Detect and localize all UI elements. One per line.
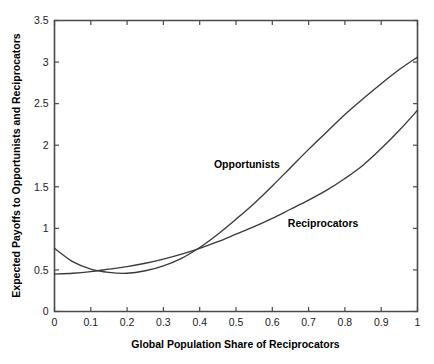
annotation-reciprocators: Reciprocators: [288, 217, 359, 229]
chart-background: [0, 0, 434, 364]
x-tick-label-10: 1: [415, 316, 421, 328]
y-tick-label-0: 0: [43, 305, 49, 317]
x-tick-label-7: 0.7: [301, 316, 316, 328]
annotation-opportunists: Opportunists: [214, 158, 280, 170]
y-tick-label-1: 0.5: [34, 264, 49, 276]
x-tick-label-4: 0.4: [192, 316, 207, 328]
x-tick-label-3: 0.3: [156, 316, 171, 328]
x-tick-label-8: 0.8: [338, 316, 353, 328]
chart-figure: 00.10.20.30.40.50.60.70.80.91 00.511.522…: [0, 0, 434, 364]
x-tick-label-6: 0.6: [265, 316, 280, 328]
y-tick-label-4: 2: [43, 139, 49, 151]
y-tick-label-5: 2.5: [34, 97, 49, 109]
x-tick-label-9: 0.9: [374, 316, 389, 328]
x-tick-label-0: 0: [52, 316, 58, 328]
y-tick-label-3: 1.5: [34, 181, 49, 193]
y-tick-label-2: 1: [43, 222, 49, 234]
y-tick-label-7: 3.5: [34, 14, 49, 26]
x-tick-label-5: 0.5: [229, 316, 244, 328]
y-tick-label-6: 3: [43, 56, 49, 68]
x-axis-title: Global Population Share of Reciprocators: [131, 338, 339, 350]
payoff-line-chart: 00.10.20.30.40.50.60.70.80.91 00.511.522…: [0, 0, 434, 364]
y-axis-title: Expected Payoffs to Opportunists and Rec…: [10, 33, 22, 297]
x-tick-label-1: 0.1: [83, 316, 98, 328]
x-tick-label-2: 0.2: [120, 316, 135, 328]
